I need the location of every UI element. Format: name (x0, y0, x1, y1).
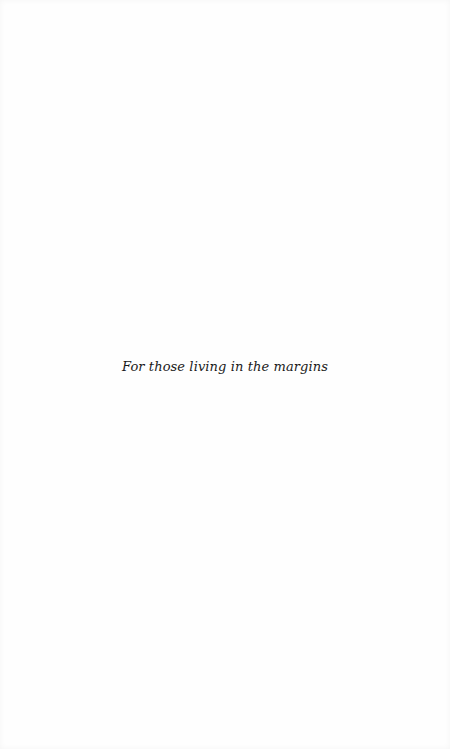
dedication-text: For those living in the margins (0, 358, 450, 376)
book-page: For those living in the margins (0, 0, 450, 749)
